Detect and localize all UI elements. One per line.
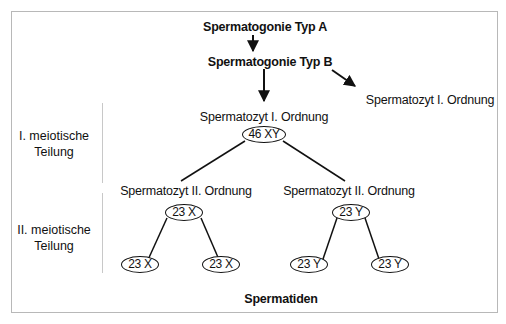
node-46xy: 46 XY [242, 126, 286, 143]
side-label-meiosis-2-line2: Teilung [6, 238, 102, 254]
node-23y-right-right: 23 Y [371, 256, 409, 273]
label-spermatogonie-b: Spermatogonie Typ B [208, 55, 332, 69]
label-spermatozyt-1: Spermatozyt I. Ordnung [200, 110, 328, 124]
connector-lines [0, 0, 506, 324]
divider-meiosis-1 [102, 103, 103, 183]
side-label-meiosis-1: I. meiotische Teilung [6, 128, 102, 160]
node-23x-left: 23 X [165, 204, 203, 221]
label-spermatogonie-a: Spermatogonie Typ A [203, 20, 327, 34]
side-label-meiosis-1-line1: I. meiotische [6, 128, 102, 144]
arrow-b-to-side-spermatozyt-icon [332, 70, 355, 86]
label-spermatozyt-1-side: Spermatozyt I. Ordnung [366, 93, 494, 107]
side-label-meiosis-2-line1: II. meiotische [6, 222, 102, 238]
node-23x-left-left: 23 X [121, 256, 159, 273]
side-label-meiosis-2: II. meiotische Teilung [6, 222, 102, 254]
node-23x-left-right: 23 X [202, 256, 240, 273]
side-label-meiosis-1-line2: Teilung [6, 144, 102, 160]
node-23y-right-left: 23 Y [290, 256, 328, 273]
divider-meiosis-2 [102, 193, 103, 273]
label-spermatiden: Spermatiden [244, 292, 318, 306]
label-spermatozyt-2-right: Spermatozyt II. Ordnung [283, 184, 415, 198]
node-23y-right: 23 Y [332, 204, 370, 221]
label-spermatozyt-2-left: Spermatozyt II. Ordnung [120, 184, 252, 198]
